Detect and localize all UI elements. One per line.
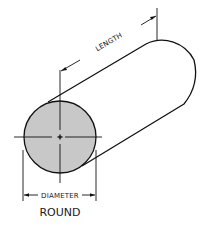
round-bar-diagram: DIAMETER ROUND LENGTH [0, 0, 205, 238]
diagram-title: ROUND [39, 206, 80, 219]
length-label: LENGTH [94, 31, 124, 53]
diagram-svg: DIAMETER ROUND LENGTH [0, 0, 205, 238]
diameter-label: DIAMETER [41, 192, 79, 200]
